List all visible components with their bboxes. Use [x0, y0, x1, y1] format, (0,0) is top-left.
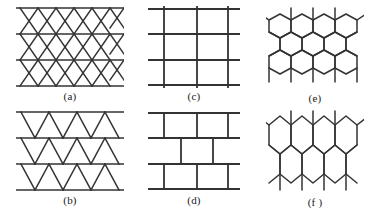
hexagon-cell [302, 145, 324, 183]
square-lattice-drawing [148, 6, 240, 88]
panel-label-e: (e) [266, 92, 364, 104]
lattice-diagonal [35, 164, 49, 190]
lattice-diagonal [77, 164, 91, 190]
lattice-diagonal [63, 112, 77, 138]
lattice-diagonal [21, 138, 35, 164]
panel-label-d: (d) [148, 194, 240, 206]
brick-wall-lattice-drawing [148, 110, 240, 192]
panel-label-f: (f ) [266, 196, 364, 208]
dangling-bond [266, 118, 269, 125]
hexagon-cell [291, 50, 313, 74]
panel-honeycomb-dense-lattice [266, 6, 364, 90]
lattice-diagonal [105, 164, 119, 190]
lattice-figure: (a) [0, 0, 376, 221]
hexagon-edge-partial [269, 145, 280, 183]
panel-brick-wall-lattice [148, 110, 240, 192]
honeycomb-coarse-drawing [266, 108, 364, 194]
honeycomb-dense-drawing [266, 6, 364, 90]
striped-triangular-lattice-drawing [16, 110, 124, 192]
hexagon-cell [335, 50, 357, 74]
hexagon-cell [280, 145, 302, 183]
hexagon-cell [313, 50, 335, 74]
lattice-diagonal [105, 138, 119, 164]
dangling-bond [357, 14, 364, 20]
lattice-diagonal [77, 138, 91, 164]
panel-label-b: (b) [16, 194, 124, 206]
hexagon-cell [324, 145, 346, 183]
dangling-bond [357, 118, 364, 125]
lattice-diagonal [49, 112, 63, 138]
lattice-diagonal [49, 164, 63, 190]
panel-triangular-lattice [16, 6, 124, 88]
lattice-diagonal [77, 112, 91, 138]
lattice-diagonal [49, 138, 63, 164]
lattice-diagonal [35, 112, 49, 138]
lattice-diagonal [63, 138, 77, 164]
lattice-diagonal [91, 138, 105, 164]
lattice-diagonal [35, 138, 49, 164]
lattice-diagonal [105, 112, 119, 138]
lattice-diagonal [21, 112, 35, 138]
hexagon-edge-partial [346, 145, 357, 183]
lattice-diagonal [91, 112, 105, 138]
lattice-diagonal [63, 164, 77, 190]
panel-label-c: (c) [148, 90, 240, 102]
dangling-bond [266, 14, 269, 20]
lattice-diagonal [91, 164, 105, 190]
triangular-lattice-drawing [16, 6, 124, 88]
panel-honeycomb-coarse-lattice [266, 108, 364, 194]
lattice-diagonal [21, 164, 35, 190]
panel-label-a: (a) [16, 90, 124, 102]
panel-square-lattice [148, 6, 240, 88]
hexagon-cell [269, 50, 291, 74]
panel-striped-triangular-lattice [16, 110, 124, 192]
